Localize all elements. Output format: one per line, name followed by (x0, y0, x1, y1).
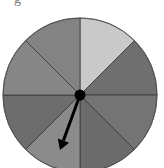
spinner-hub (75, 90, 86, 101)
spinner-wheel (0, 0, 164, 168)
